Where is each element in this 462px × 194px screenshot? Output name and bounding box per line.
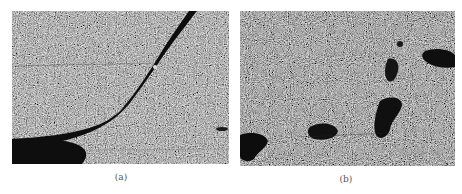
micrograph-a-texture [12,11,229,164]
micrograph-b [240,11,455,166]
caption-a: (a) [106,172,136,182]
micrograph-b-texture [240,11,455,166]
caption-b: (b) [331,174,361,184]
micrograph-a [12,11,229,164]
